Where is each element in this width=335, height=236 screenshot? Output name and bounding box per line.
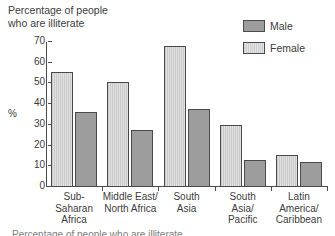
y-axis-tick-label: 0 <box>39 181 45 191</box>
y-axis-label: % <box>8 108 17 119</box>
x-axis-separator <box>327 186 328 191</box>
bar-male-3 <box>244 160 266 187</box>
bar-male-2 <box>188 109 210 187</box>
bar-female-4 <box>276 155 298 187</box>
bar-female-3 <box>220 125 242 187</box>
category-label-1: Middle East/ North Africa <box>102 191 158 214</box>
category-label-3: South Asia/ Pacific <box>215 191 271 226</box>
bottom-cut-caption: Percentage of people who are illiterate <box>12 229 183 236</box>
bar-female-1 <box>107 82 129 187</box>
category-label-4: Latin America/ Caribbean <box>271 191 327 226</box>
y-axis-tick-label: 70 <box>34 36 45 46</box>
bar-chart-plot-area: % 010203040506070 Sub- Saharan AfricaMid… <box>0 0 335 236</box>
y-axis-tick-label: 30 <box>34 119 45 129</box>
y-axis-tick-label: 20 <box>34 140 45 150</box>
y-axis-tick-label: 60 <box>34 57 45 67</box>
bar-female-0 <box>51 72 73 187</box>
bar-male-0 <box>75 112 97 187</box>
bar-male-4 <box>300 162 322 187</box>
category-label-0: Sub- Saharan Africa <box>46 191 102 226</box>
bar-female-2 <box>164 46 186 187</box>
bar-male-1 <box>131 130 153 187</box>
bars-layer <box>46 42 327 187</box>
y-axis-tick-label: 50 <box>34 77 45 87</box>
y-axis-tick-label: 40 <box>34 98 45 108</box>
category-label-2: South Asia <box>158 191 214 214</box>
y-axis-tick-label: 10 <box>34 160 45 170</box>
